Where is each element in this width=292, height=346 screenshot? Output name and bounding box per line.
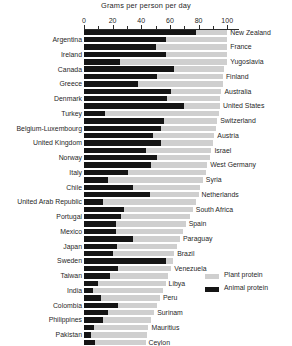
stacked-bar xyxy=(84,310,154,315)
legend-label: Animal protein xyxy=(224,284,268,291)
stacked-bar xyxy=(84,126,216,131)
bar-segment-animal-protein xyxy=(84,140,161,145)
bar-category-label: Ceylon xyxy=(149,339,170,346)
bar-segment-animal-protein xyxy=(84,118,164,123)
axis-tick-mark xyxy=(141,25,142,29)
chart-row: Chile xyxy=(0,184,292,191)
bar-segment-animal-protein xyxy=(84,170,128,175)
bar-segment-animal-protein xyxy=(84,244,117,249)
legend-entry: Animal protein xyxy=(205,284,291,297)
chart-row: Mauritius xyxy=(0,324,292,331)
bar-category-label: Mauritius xyxy=(151,324,179,331)
bar-category-label: Mexico xyxy=(60,228,82,235)
bar-segment-animal-protein xyxy=(84,148,146,153)
bar-segment-animal-protein xyxy=(84,30,196,35)
bar-category-label: Yugoslavia xyxy=(230,58,263,65)
bar-segment-animal-protein xyxy=(84,111,105,116)
bar-segment-animal-protein xyxy=(84,89,171,94)
legend-entry: Plant protein xyxy=(205,271,291,284)
bar-segment-animal-protein xyxy=(84,133,153,138)
bar-segment-animal-protein xyxy=(84,59,120,64)
bar-segment-animal-protein xyxy=(84,52,166,57)
bar-category-label: Portugal xyxy=(56,213,82,220)
bar-segment-animal-protein xyxy=(84,288,93,293)
axis-tick-label: 60 xyxy=(166,17,174,24)
chart-title: Grams per person per day xyxy=(0,1,292,10)
bar-category-label: Australia xyxy=(224,88,251,95)
bar-segment-plant-protein xyxy=(84,288,163,293)
bar-category-label: Philippines xyxy=(49,316,82,323)
bar-segment-animal-protein xyxy=(84,340,95,345)
stacked-bar xyxy=(84,332,147,337)
axis-tick-label: 100 xyxy=(221,17,233,24)
chart-row: Mexico xyxy=(0,228,292,235)
chart-legend: Plant proteinAnimal protein xyxy=(205,271,291,297)
bar-category-label: Greece xyxy=(59,80,82,87)
stacked-bar xyxy=(84,192,199,197)
bar-segment-animal-protein xyxy=(84,37,166,42)
bar-segment-animal-protein xyxy=(84,214,121,219)
stacked-bar xyxy=(84,81,223,86)
bar-segment-animal-protein xyxy=(84,66,174,71)
legend-label: Plant protein xyxy=(224,271,263,278)
bar-category-label: West Germany xyxy=(210,161,256,168)
stacked-bar xyxy=(84,52,227,57)
stacked-bar xyxy=(84,155,210,160)
bar-segment-animal-protein xyxy=(84,96,167,101)
stacked-bar xyxy=(84,66,224,71)
bar-segment-animal-protein xyxy=(84,192,150,197)
axis-tick-mark xyxy=(170,25,171,29)
bar-segment-animal-protein xyxy=(84,332,91,337)
bar-category-label: South Africa xyxy=(196,206,233,213)
bar-segment-animal-protein xyxy=(84,229,116,234)
stacked-bar xyxy=(84,244,177,249)
chart-row: Japan xyxy=(0,243,292,250)
bar-segment-animal-protein xyxy=(84,199,103,204)
stacked-bar xyxy=(84,74,223,79)
bar-category-label: Finland xyxy=(226,73,249,80)
bar-category-label: Turkey xyxy=(61,110,82,117)
axis-tick-mark xyxy=(84,25,85,29)
bar-category-label: Colombia xyxy=(53,302,82,309)
stacked-bar xyxy=(84,118,217,123)
bar-category-label: India xyxy=(67,287,82,294)
chart-row: Yugoslavia xyxy=(0,59,292,66)
stacked-bar xyxy=(84,266,171,271)
chart-row: Australia xyxy=(0,88,292,95)
axis-tick-label: 20 xyxy=(109,17,117,24)
bar-segment-animal-protein xyxy=(84,303,118,308)
stacked-bar xyxy=(84,207,193,212)
stacked-bar xyxy=(84,37,227,42)
stacked-bar xyxy=(84,258,173,263)
stacked-bar xyxy=(84,133,214,138)
bar-segment-animal-protein xyxy=(84,325,94,330)
bar-segment-animal-protein xyxy=(84,126,161,131)
bar-category-label: New Zealand xyxy=(230,29,271,36)
chart-row: Belgium-Luxembourg xyxy=(0,125,292,132)
chart-row: United Arab Republic xyxy=(0,199,292,206)
stacked-bar xyxy=(84,281,166,286)
stacked-bar xyxy=(84,148,211,153)
bar-category-label: Switzerland xyxy=(220,117,256,124)
bar-segment-animal-protein xyxy=(84,310,108,315)
chart-row: Ceylon xyxy=(0,339,292,346)
bar-segment-animal-protein xyxy=(84,273,110,278)
stacked-bar xyxy=(84,295,160,300)
stacked-bar xyxy=(84,162,207,167)
bar-category-label: Paraguay xyxy=(183,235,213,242)
stacked-bar xyxy=(84,140,213,145)
stacked-bar xyxy=(84,229,183,234)
stacked-bar xyxy=(84,303,157,308)
bar-segment-animal-protein xyxy=(84,74,157,79)
bar-category-label: Japan xyxy=(63,243,82,250)
stacked-bar xyxy=(84,325,148,330)
stacked-bar xyxy=(84,44,227,49)
bar-category-label: Denmark xyxy=(54,95,82,102)
stacked-bar xyxy=(84,177,203,182)
bar-category-label: Ireland xyxy=(61,51,82,58)
chart-row: South Africa xyxy=(0,206,292,213)
chart-row: Italy xyxy=(0,169,292,176)
chart-row: Philippines xyxy=(0,317,292,324)
stacked-bar xyxy=(84,221,186,226)
